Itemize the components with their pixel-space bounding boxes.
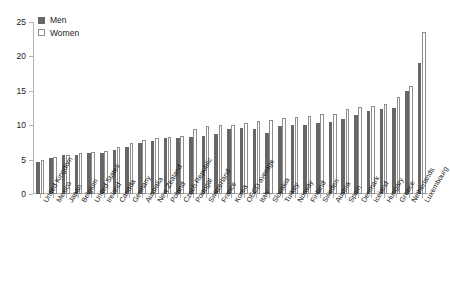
bar-women [257,121,261,194]
legend-label-men: Men [50,16,67,25]
x-tick-mark [345,194,346,198]
bar-men [329,122,333,194]
x-tick-mark [91,194,92,198]
y-tick-mark [29,194,33,195]
bar-group [123,22,136,194]
bar-women [397,97,401,194]
x-tick-mark [231,194,232,198]
bar-group [47,22,60,194]
x-tick-mark [244,194,245,198]
bar-women [320,114,324,194]
bar-group [339,22,352,194]
bar-group [110,22,123,194]
bar-men [265,133,269,194]
bar-men [341,119,345,194]
y-tick-label: 25 [0,18,26,27]
bar-men [278,126,282,194]
bar-women [282,118,286,194]
bar-men [214,134,218,194]
bar-group [174,22,187,194]
legend: Men Women [38,16,79,41]
bar-men [176,138,180,194]
bar-men [151,141,155,194]
y-axis: 0510152025 [0,0,26,296]
bar-men [202,136,206,194]
x-tick-mark [256,194,257,198]
x-tick-mark [320,194,321,198]
bar-group [98,22,111,194]
x-tick-mark [371,194,372,198]
bar-women [346,109,350,194]
legend-label-women: Women [50,29,79,38]
bar-women [168,137,172,194]
x-tick-mark [78,194,79,198]
x-tick-mark [53,194,54,198]
x-tick-mark [358,194,359,198]
bar-group [263,22,276,194]
bar-group [250,22,263,194]
bar-men [418,63,422,194]
bar-men [316,123,320,194]
bar-men [380,109,384,194]
bar-men [189,137,193,194]
bar-group [390,22,403,194]
x-tick-mark [142,194,143,198]
x-tick-mark [193,194,194,198]
bar-group [403,22,416,194]
x-tick-mark [155,194,156,198]
x-tick-mark [269,194,270,198]
bar-women [422,32,426,194]
bar-group [314,22,327,194]
bar-men [36,162,40,194]
bar-group [364,22,377,194]
bar-group [326,22,339,194]
x-tick-mark [40,194,41,198]
bar-women [79,153,83,194]
x-tick-mark [117,194,118,198]
x-tick-mark [307,194,308,198]
bar-men [62,155,66,194]
bar-men [87,153,91,194]
x-tick-mark [180,194,181,198]
bar-women [91,152,95,194]
bar-group [34,22,47,194]
bar-women [41,160,45,194]
bar-men [303,125,307,194]
bar-group [199,22,212,194]
bar-women [142,140,146,194]
bar-women [117,147,121,194]
bar-group [237,22,250,194]
x-tick-mark [384,194,385,198]
y-tick-label: 15 [0,87,26,96]
y-tick-label: 10 [0,121,26,130]
legend-item-men: Men [38,16,79,25]
bar-group [72,22,85,194]
bar-women [333,114,337,194]
x-tick-mark [396,194,397,198]
x-tick-mark [66,194,67,198]
bar-men [49,158,53,194]
x-tick-mark [295,194,296,198]
bar-group [415,22,428,194]
bar-group [352,22,365,194]
bar-women [371,106,375,194]
bar-men [240,128,244,194]
bar-women [219,125,223,194]
y-tick-label: 5 [0,155,26,164]
bar-women [269,120,273,194]
bar-group [136,22,149,194]
bar-women [180,136,184,194]
bar-men [125,147,129,194]
bar-men [405,91,409,194]
plot-area [34,22,428,194]
bar-group [377,22,390,194]
men-swatch-icon [38,17,45,24]
bar-men [392,108,396,194]
bar-women [308,116,312,194]
bar-women [66,155,70,194]
bar-group [301,22,314,194]
bar-group [59,22,72,194]
bar-group [148,22,161,194]
bar-men [367,111,371,194]
